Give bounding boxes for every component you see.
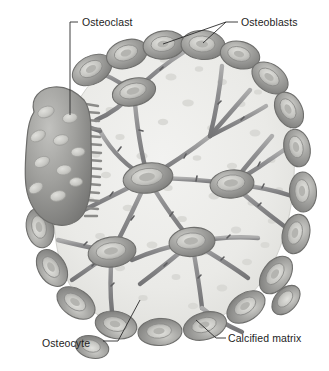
diagram-canvas xyxy=(0,0,329,371)
label-osteoblasts: Osteoblasts xyxy=(241,16,298,28)
label-osteoclast: Osteoclast xyxy=(82,16,133,28)
label-calcified-matrix: Calcified matrix xyxy=(228,332,301,344)
osteoblast xyxy=(289,172,317,213)
bone-tissue-figure: Osteoclast Osteoblasts Osteocyte Calcifi… xyxy=(0,0,329,371)
label-osteocyte: Osteocyte xyxy=(42,337,90,349)
